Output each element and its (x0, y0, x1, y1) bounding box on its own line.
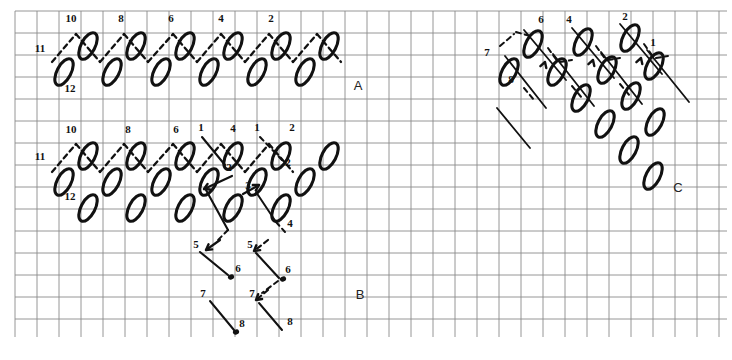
number-label: 10 (66, 123, 78, 135)
dashed-guide-line (52, 144, 76, 172)
number-label: 8 (508, 73, 514, 85)
guide-line (210, 301, 234, 330)
guide-line (620, 24, 662, 74)
guide-line (200, 252, 228, 275)
panel-letters-group: ABC (354, 78, 683, 302)
bobbin-ellipse (316, 140, 342, 172)
bobbin-ellipse (220, 192, 246, 224)
number-label: 1 (254, 121, 260, 133)
number-label: 4 (218, 12, 224, 24)
bobbin-ellipse (172, 192, 198, 224)
number-label: 4 (566, 13, 572, 25)
number-label: 6 (235, 262, 241, 274)
number-label: 8 (125, 123, 131, 135)
number-label: 7 (249, 287, 255, 299)
panel-letter-c: C (673, 180, 682, 195)
number-label: 2 (289, 121, 295, 133)
figure-canvas: 1086421112 108614121112256782345678 7864… (0, 0, 732, 360)
bobbin-ellipse (617, 22, 643, 54)
number-label: 6 (285, 263, 291, 275)
number-label: 5 (193, 238, 199, 250)
number-label: 10 (66, 12, 78, 24)
bobbin-ellipse (616, 134, 642, 166)
dashed-guide-line (100, 144, 124, 172)
bobbin-ellipse (196, 56, 222, 88)
number-label: 7 (484, 46, 490, 58)
bobbin-ellipse (292, 56, 318, 88)
number-label: 12 (65, 190, 77, 202)
number-label: 4 (287, 217, 293, 229)
number-label: 11 (35, 42, 45, 54)
bobbin-ellipse (148, 56, 174, 88)
guide-line (256, 253, 279, 278)
dashed-guide-line (100, 34, 124, 62)
number-label: 12 (65, 82, 77, 94)
bobbin-ellipse (123, 192, 149, 224)
dashed-guide-line (218, 230, 228, 240)
dashed-guide-line (262, 281, 278, 293)
number-label: 5 (247, 238, 253, 250)
number-label: 11 (35, 150, 45, 162)
diagram-svg: 1086421112 108614121112256782345678 7864… (0, 0, 732, 360)
number-label: 6 (168, 12, 174, 24)
number-label: 7 (200, 287, 206, 299)
number-label: 4 (230, 122, 236, 134)
dashed-guide-line (197, 34, 221, 62)
number-label: 2 (285, 156, 291, 168)
number-label: 6 (538, 13, 544, 25)
dashed-guide-line (500, 34, 514, 46)
panel-letter-b: B (356, 287, 365, 302)
arrow-head (588, 60, 594, 66)
bobbin-ellipse (292, 166, 318, 198)
number-label: 1 (198, 121, 204, 133)
bobbin-ellipse (592, 108, 618, 140)
number-label: 8 (239, 317, 245, 329)
dashed-guide-line (52, 34, 76, 62)
bobbin-ellipse (75, 192, 101, 224)
panel-letter-a: A (354, 78, 363, 93)
bobbin-ellipse (148, 166, 174, 198)
number-label: 8 (287, 315, 293, 327)
number-label: 2 (268, 12, 274, 24)
number-label: 6 (173, 123, 179, 135)
ink-blob (279, 275, 287, 282)
guide-line (497, 108, 530, 148)
number-label: 8 (118, 12, 124, 24)
number-label: 1 (650, 36, 656, 48)
dashed-guide-line (293, 34, 317, 62)
dashed-guide-line (197, 144, 221, 172)
arrow-head (636, 58, 642, 64)
bobbin-ellipse (642, 106, 668, 138)
number-label: 2 (622, 10, 628, 22)
number-label: 2 (226, 161, 232, 173)
dashed-guide-line (276, 222, 285, 232)
